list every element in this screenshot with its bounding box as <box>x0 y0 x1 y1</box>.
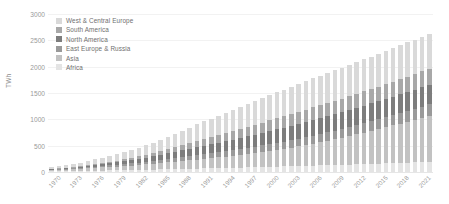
bar-segment <box>391 97 396 116</box>
bar-1993[interactable] <box>216 116 221 172</box>
bar-segment <box>384 51 389 84</box>
y-axis-tick-label: 0 <box>14 169 45 176</box>
bar-1988[interactable] <box>180 131 185 172</box>
bar-1976[interactable] <box>93 159 98 172</box>
bar-segment <box>238 107 243 129</box>
bar-2019[interactable] <box>405 42 410 172</box>
bar-2022[interactable] <box>427 34 432 172</box>
bar-1985[interactable] <box>158 140 163 172</box>
bar-1990[interactable] <box>195 124 200 172</box>
bar-1979[interactable] <box>115 154 120 172</box>
legend-item[interactable]: West & Central Europe <box>56 17 133 24</box>
bar-1977[interactable] <box>100 158 105 172</box>
bar-2009[interactable] <box>333 70 338 172</box>
bar-2015[interactable] <box>376 54 381 172</box>
bar-2013[interactable] <box>362 59 367 172</box>
legend-item[interactable]: North America <box>56 36 133 43</box>
bar-segment <box>137 148 142 157</box>
bar-1974[interactable] <box>78 163 83 172</box>
bar-1998[interactable] <box>253 101 258 172</box>
bar-1978[interactable] <box>107 156 112 172</box>
bar-segment <box>224 157 229 168</box>
bar-1983[interactable] <box>144 145 149 172</box>
bar-segment <box>144 145 149 154</box>
bar-segment <box>369 57 374 89</box>
bar-2016[interactable] <box>384 51 389 172</box>
bar-2004[interactable] <box>296 84 301 172</box>
bar-segment <box>405 92 410 111</box>
bar-2010[interactable] <box>340 68 345 172</box>
bar-1987[interactable] <box>173 134 178 172</box>
bar-segment <box>420 71 425 87</box>
bar-2021[interactable] <box>420 37 425 172</box>
bar-2008[interactable] <box>325 73 330 172</box>
bar-segment <box>289 126 294 140</box>
bar-1981[interactable] <box>129 150 134 172</box>
bar-1991[interactable] <box>202 121 207 172</box>
bar-segment <box>216 116 221 135</box>
bar-2006[interactable] <box>311 78 316 172</box>
bar-2011[interactable] <box>347 65 352 172</box>
bar-1984[interactable] <box>151 143 156 172</box>
bar-1996[interactable] <box>238 107 243 172</box>
bar-1995[interactable] <box>231 110 236 172</box>
bar-segment <box>202 146 207 154</box>
bar-segment <box>180 161 185 169</box>
bar-segment <box>151 143 156 153</box>
bar-segment <box>398 124 403 163</box>
bar-1973[interactable] <box>71 164 76 172</box>
bar-2012[interactable] <box>354 62 359 172</box>
bar-1992[interactable] <box>209 119 214 172</box>
bar-segment <box>427 34 432 69</box>
bar-segment <box>376 87 381 102</box>
bar-2002[interactable] <box>282 89 287 172</box>
bar-segment <box>362 106 367 124</box>
bar-segment <box>333 114 338 131</box>
bar-2018[interactable] <box>398 45 403 172</box>
bar-segment <box>333 139 338 165</box>
bar-1997[interactable] <box>246 104 251 172</box>
bar-2005[interactable] <box>304 81 309 172</box>
bar-segment <box>202 159 207 168</box>
legend-item[interactable]: Africa <box>56 64 133 71</box>
bar-segment <box>413 109 418 120</box>
bar-segment <box>413 74 418 90</box>
bar-1999[interactable] <box>260 98 265 172</box>
bar-segment <box>333 165 338 172</box>
bar-2017[interactable] <box>391 48 396 172</box>
bar-segment <box>354 108 359 125</box>
bar-segment <box>391 48 396 81</box>
bar-1982[interactable] <box>137 148 142 172</box>
bar-2000[interactable] <box>267 95 272 172</box>
bar-1975[interactable] <box>86 161 91 172</box>
bar-1989[interactable] <box>187 128 192 172</box>
bar-segment <box>354 62 359 94</box>
bar-segment <box>296 112 301 124</box>
legend-item[interactable]: East Europe & Russia <box>56 45 133 52</box>
bar-segment <box>267 144 272 151</box>
bar-segment <box>209 158 214 168</box>
bar-1980[interactable] <box>122 152 127 172</box>
bar-segment <box>246 104 251 127</box>
bar-segment <box>427 162 432 172</box>
bar-1972[interactable] <box>64 165 69 172</box>
bar-segment <box>253 101 258 125</box>
bar-2014[interactable] <box>369 57 374 172</box>
legend-item[interactable]: South America <box>56 26 133 33</box>
bar-segment <box>260 98 265 123</box>
bar-segment <box>231 140 236 150</box>
bar-segment <box>405 111 410 122</box>
bar-2007[interactable] <box>318 76 323 172</box>
bar-1994[interactable] <box>224 113 229 172</box>
bar-segment <box>253 153 258 167</box>
bar-segment <box>420 87 425 106</box>
bar-segment <box>253 135 258 147</box>
bar-2020[interactable] <box>413 40 418 172</box>
bar-segment <box>325 141 330 165</box>
bar-segment <box>260 133 265 146</box>
bar-2001[interactable] <box>275 92 280 172</box>
bar-2003[interactable] <box>289 87 294 172</box>
bar-segment <box>318 165 323 172</box>
bar-1986[interactable] <box>166 137 171 172</box>
legend-item[interactable]: Asia <box>56 55 133 62</box>
